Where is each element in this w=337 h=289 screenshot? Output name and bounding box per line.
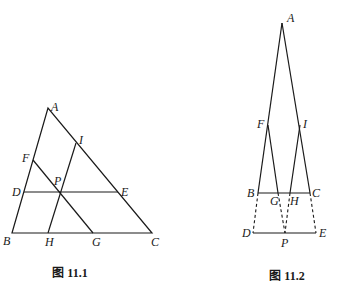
label-g: G xyxy=(270,194,279,208)
geometry-figures: A B C D E F I P H G 图 11.1 A F I B C G H… xyxy=(0,0,337,289)
label-h: H xyxy=(289,194,300,208)
label-a: A xyxy=(286,11,295,25)
label-f: F xyxy=(21,151,30,165)
label-d: D xyxy=(11,185,21,199)
label-g: G xyxy=(92,235,101,249)
label-e: E xyxy=(120,185,129,199)
label-h: H xyxy=(44,235,55,249)
segment-fg xyxy=(268,125,278,193)
label-c: C xyxy=(312,186,321,200)
caption-figure-11-1: 图 11.1 xyxy=(52,266,87,280)
caption-figure-11-2: 图 11.2 xyxy=(269,269,304,283)
label-d: D xyxy=(241,226,251,240)
segment-ac xyxy=(282,23,310,193)
label-p: P xyxy=(53,174,62,188)
segment-ih xyxy=(48,143,76,233)
segment-ih xyxy=(290,125,300,193)
label-i: I xyxy=(78,133,84,147)
label-e: E xyxy=(318,226,327,240)
label-f: F xyxy=(256,117,265,131)
dashed-gp xyxy=(278,193,285,233)
segment-fg xyxy=(33,160,93,233)
segment-ab xyxy=(258,23,282,193)
label-b: B xyxy=(247,186,255,200)
figure-11-2: A F I B C G H D E P 图 11.2 xyxy=(241,11,327,283)
triangle-abc xyxy=(12,108,152,233)
label-i: I xyxy=(302,117,308,131)
label-c: C xyxy=(151,235,160,249)
label-b: B xyxy=(3,234,11,248)
label-p: P xyxy=(280,236,289,250)
figure-11-1: A B C D E F I P H G 图 11.1 xyxy=(3,100,160,280)
label-a: A xyxy=(50,100,59,114)
